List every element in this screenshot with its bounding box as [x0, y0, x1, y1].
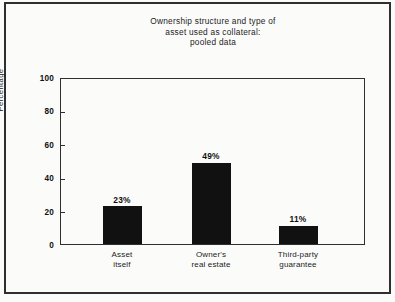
- bar-value-label-owners-real-estate: 49%: [187, 151, 235, 161]
- bar-value-label-third-party-guarantee: 11%: [274, 214, 322, 224]
- y-tick-label-60: 60: [20, 141, 54, 150]
- y-tick-label-0: 0: [20, 241, 54, 250]
- bar-third-party-guarantee[interactable]: [279, 226, 318, 244]
- bar-owners-real-estate[interactable]: [192, 163, 231, 244]
- y-tick-label-20: 20: [20, 208, 54, 217]
- x-category-label-asset-itself: Asset itself: [82, 250, 162, 271]
- y-tick-label-100: 100: [20, 74, 54, 83]
- y-tick-label-40: 40: [20, 174, 54, 183]
- figure-canvas: Ownership structure and type of asset us…: [0, 0, 395, 302]
- x-category-label-third-party-guarantee: Third-party guarantee: [256, 250, 340, 271]
- bar-asset-itself[interactable]: [103, 206, 142, 244]
- bar-value-label-asset-itself: 23%: [98, 195, 146, 205]
- x-category-label-owners-real-estate: Owner's real estate: [168, 250, 254, 271]
- chart-title: Ownership structure and type of asset us…: [60, 16, 366, 48]
- y-tick-label-80: 80: [20, 107, 54, 116]
- y-axis-title: Percentage: [0, 50, 5, 130]
